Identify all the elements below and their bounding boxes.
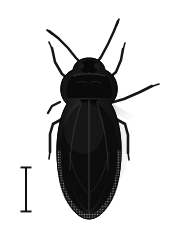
left-midleg-tarsus xyxy=(49,151,50,159)
right-eye xyxy=(94,63,100,69)
pronotum xyxy=(66,73,112,98)
scale-bar-stem xyxy=(25,167,27,212)
specimen-image xyxy=(0,0,170,236)
wing-sheen xyxy=(64,102,104,154)
right-midleg-tarsus xyxy=(128,152,129,160)
specimen-figure: Dorsal view photograph of a dark-bodied … xyxy=(0,0,170,236)
left-eye xyxy=(78,63,84,69)
scale-bar-bottom-cap xyxy=(21,211,32,213)
